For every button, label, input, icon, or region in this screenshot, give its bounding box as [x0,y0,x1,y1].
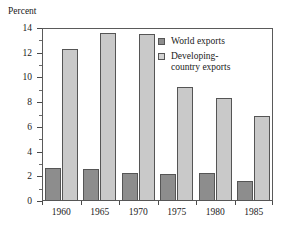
x-tick-label: 1980 [206,207,225,217]
bar [139,34,155,201]
x-axis: 196019651970197519801985 [42,201,273,227]
x-tick-mark [42,201,43,205]
x-tick-label: 1965 [90,207,109,217]
x-tick-mark [272,201,273,205]
x-tick-mark [81,201,82,205]
x-tick-mark [119,201,120,205]
y-tick-label: 2 [27,171,32,181]
y-tick-label: 8 [27,97,32,107]
x-tick-mark [235,201,236,205]
bar [122,173,138,201]
dark-swatch-icon [158,38,165,45]
legend-label-line-2: country exports [171,62,230,72]
legend-label-developing-country-exports: Developing-country exports [171,51,230,73]
bar [177,87,193,201]
x-tick-label: 1970 [129,207,148,217]
legend-label-world-exports: World exports [171,36,225,47]
x-tick-label: 1985 [244,207,263,217]
x-tick-mark [196,201,197,205]
y-tick-label: 6 [27,122,32,132]
bar [100,33,116,201]
y-tick-label: 12 [23,48,33,58]
bar [237,181,253,201]
legend-item-world-exports: World exports [158,36,266,47]
light-swatch-icon [158,53,165,60]
bar [199,173,215,201]
bar [254,116,270,201]
y-tick-label: 4 [27,147,32,157]
x-tick-mark [158,201,159,205]
y-tick-label: 10 [23,72,33,82]
legend-label-line-1: Developing- [171,51,219,61]
y-tick-label: 0 [27,196,32,206]
y-tick-label: 14 [23,23,33,33]
x-tick-label: 1960 [52,207,71,217]
x-tick-label: 1975 [167,207,186,217]
bar [83,169,99,201]
chart-legend: World exports Developing-country exports [158,36,266,77]
bar [216,98,232,201]
bar [62,49,78,201]
y-axis: 02468101214 [0,28,42,201]
legend-item-developing-country-exports: Developing-country exports [158,51,266,73]
y-axis-title: Percent [8,6,37,16]
bar [160,174,176,201]
bar-chart-figure: Percent 02468101214 19601965197019751980… [0,0,290,231]
bar [45,168,61,201]
